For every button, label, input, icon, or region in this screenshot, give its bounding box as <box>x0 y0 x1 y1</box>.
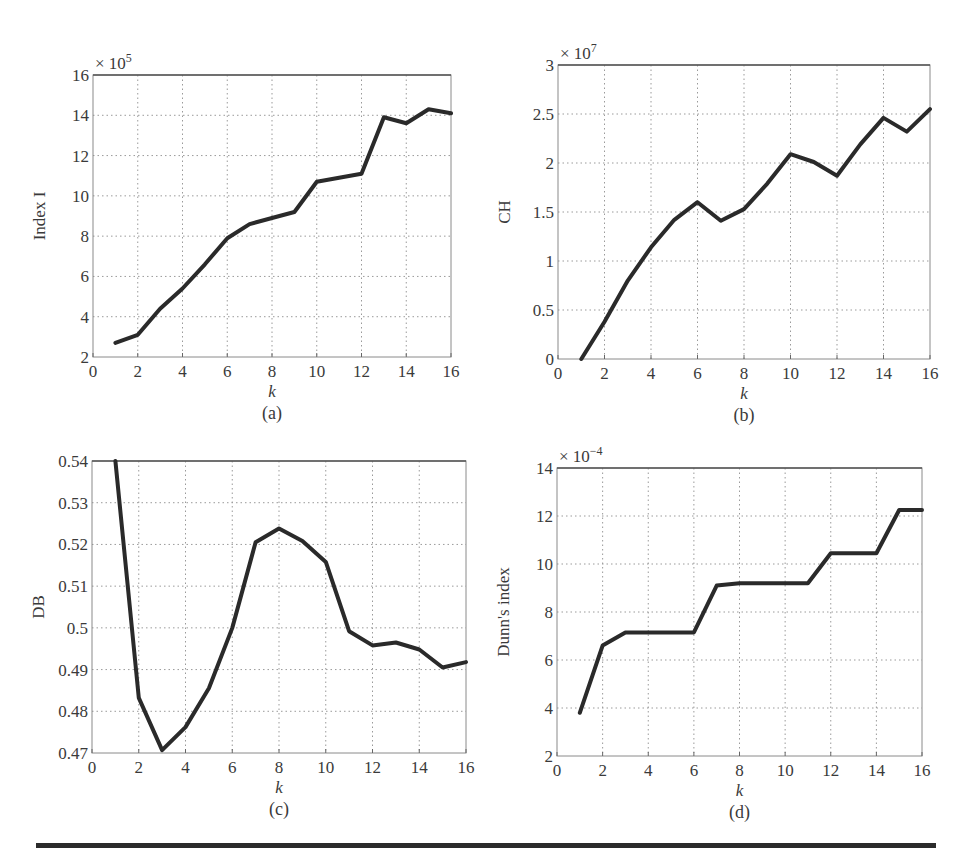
y-axis-label: CH <box>495 200 514 224</box>
data-series-line <box>115 109 451 343</box>
y-tick-label: 8 <box>545 603 554 622</box>
y-tick-label: 4 <box>81 308 90 327</box>
y-tick-label: 0.48 <box>58 702 88 721</box>
y-tick-label: 4 <box>545 699 554 718</box>
x-tick-label: 16 <box>922 364 939 383</box>
panel-caption: (a) <box>262 403 282 424</box>
y-tick-label: 0.5 <box>533 301 554 320</box>
x-tick-label: 16 <box>443 362 460 381</box>
y-tick-label: 14 <box>72 106 90 125</box>
y-axis-label: Dunn's index <box>494 567 513 657</box>
x-axis-label: k <box>275 778 283 797</box>
x-tick-label: 10 <box>308 362 325 381</box>
y-tick-label: 2 <box>81 348 90 367</box>
y-axis-multiplier: × 10−4 <box>559 444 603 466</box>
y-tick-label: 0.52 <box>58 535 88 554</box>
x-tick-label: 8 <box>268 362 277 381</box>
x-tick-label: 4 <box>178 362 187 381</box>
y-tick-label: 16 <box>72 66 89 85</box>
y-tick-label: 3 <box>546 56 555 75</box>
data-series-line <box>580 510 922 713</box>
x-tick-label: 12 <box>829 364 846 383</box>
x-tick-label: 12 <box>353 362 370 381</box>
x-tick-label: 2 <box>598 761 607 780</box>
x-tick-label: 14 <box>875 364 893 383</box>
x-axis-label: k <box>740 384 748 403</box>
y-tick-label: 14 <box>536 459 554 478</box>
y-tick-label: 0.54 <box>58 452 88 471</box>
x-tick-label: 6 <box>693 364 702 383</box>
y-tick-label: 12 <box>72 147 89 166</box>
x-tick-label: 16 <box>914 761 931 780</box>
x-tick-label: 2 <box>135 758 144 777</box>
x-tick-label: 14 <box>868 761 886 780</box>
y-tick-label: 0.49 <box>58 661 88 680</box>
chart-panel-db: 02468101214160.470.480.490.50.510.520.53… <box>29 452 475 820</box>
y-tick-label: 6 <box>81 267 90 286</box>
y-axis-label: DB <box>29 595 48 619</box>
x-tick-label: 12 <box>822 761 839 780</box>
figure-bottom-rule <box>36 843 936 848</box>
figure-canvas: 0246810121416246810121416× 105k(a)Index … <box>0 0 969 864</box>
y-tick-label: 10 <box>72 187 89 206</box>
x-tick-label: 0 <box>554 364 563 383</box>
panel-caption: (c) <box>269 799 289 820</box>
x-tick-label: 8 <box>735 761 744 780</box>
y-tick-label: 1.5 <box>533 203 554 222</box>
x-axis-label: k <box>268 382 276 401</box>
x-tick-label: 2 <box>600 364 609 383</box>
chart-panel-index-i: 0246810121416246810121416× 105k(a)Index … <box>30 51 460 424</box>
y-tick-label: 8 <box>81 227 90 246</box>
x-axis-label: k <box>736 781 744 800</box>
x-tick-label: 10 <box>782 364 799 383</box>
x-tick-label: 14 <box>398 362 416 381</box>
y-axis-label: Index I <box>30 191 49 240</box>
x-tick-label: 4 <box>181 758 190 777</box>
x-tick-label: 10 <box>317 758 334 777</box>
x-tick-label: 12 <box>364 758 381 777</box>
data-series-line <box>581 109 930 359</box>
x-tick-label: 8 <box>740 364 749 383</box>
x-tick-label: 4 <box>647 364 656 383</box>
chart-panel-ch: 024681012141600.511.522.53× 107k(b)CH <box>495 41 939 426</box>
y-axis-multiplier: × 105 <box>95 51 132 73</box>
y-tick-label: 0.47 <box>58 744 88 763</box>
x-tick-label: 10 <box>777 761 794 780</box>
y-tick-label: 12 <box>536 507 553 526</box>
y-tick-label: 0.51 <box>58 577 88 596</box>
x-tick-label: 8 <box>275 758 284 777</box>
x-tick-label: 0 <box>88 758 97 777</box>
data-series-line <box>115 461 466 750</box>
x-tick-label: 6 <box>223 362 232 381</box>
x-tick-label: 14 <box>411 758 429 777</box>
y-tick-label: 2 <box>545 747 554 766</box>
x-tick-label: 6 <box>690 761 699 780</box>
x-tick-label: 0 <box>553 761 562 780</box>
x-tick-label: 16 <box>458 758 475 777</box>
y-axis-multiplier: × 107 <box>560 41 597 63</box>
y-tick-label: 10 <box>536 555 553 574</box>
panel-caption: (d) <box>729 802 750 823</box>
y-tick-label: 0 <box>546 350 555 369</box>
panel-caption: (b) <box>734 405 755 426</box>
chart-panel-dunns-index: 02468101214162468101214× 10−4k(d)Dunn's … <box>494 444 931 823</box>
x-tick-label: 0 <box>89 362 98 381</box>
x-tick-label: 4 <box>644 761 653 780</box>
y-tick-label: 1 <box>546 252 555 271</box>
x-tick-label: 6 <box>228 758 237 777</box>
y-tick-label: 6 <box>545 651 554 670</box>
y-tick-label: 0.53 <box>58 494 88 513</box>
x-tick-label: 2 <box>134 362 143 381</box>
y-tick-label: 2.5 <box>533 105 554 124</box>
y-tick-label: 0.5 <box>67 619 88 638</box>
y-tick-label: 2 <box>546 154 555 173</box>
